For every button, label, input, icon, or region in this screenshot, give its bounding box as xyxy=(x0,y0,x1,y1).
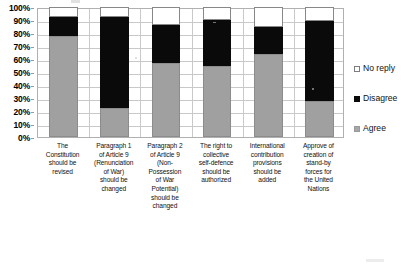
y-axis-tick-mark xyxy=(31,60,34,61)
y-axis-tick-mark xyxy=(31,73,34,74)
legend-item-disagree[interactable]: Disagree xyxy=(354,93,412,104)
bar-segment-no-reply xyxy=(100,7,129,17)
x-axis-category-label: TheConstitutionshould berevised xyxy=(37,142,88,176)
disagree-swatch-icon xyxy=(354,96,360,102)
bar-segment-no-reply xyxy=(49,7,78,17)
bar-segment-disagree xyxy=(305,21,334,100)
bar-slot xyxy=(140,9,191,137)
x-axis-label-line: Paragraph 1 xyxy=(88,142,139,151)
scan-speck xyxy=(71,0,80,3)
bar-slot xyxy=(243,9,294,137)
bar-slot xyxy=(294,9,345,137)
bar-segment-agree xyxy=(305,101,334,137)
x-axis-label-line: of Article 9 xyxy=(139,151,190,160)
x-axis-category-label: Paragraph 2of Article 9(Non-Possessionof… xyxy=(139,142,190,211)
x-axis-label-line: self-defence xyxy=(191,159,242,168)
x-axis-category-label: Approve ofcreation ofstand-byforces fort… xyxy=(293,142,344,194)
x-axis-label-line: Paragraph 2 xyxy=(139,142,190,151)
bar-segment-disagree xyxy=(254,27,283,54)
x-axis-label-line: the United xyxy=(293,176,344,185)
x-axis-category-label: The right tocollectiveself-defenceshould… xyxy=(191,142,242,185)
x-axis-label-line: changed xyxy=(88,185,139,194)
bar-slot xyxy=(89,9,140,137)
bar-segment-disagree xyxy=(152,25,181,63)
y-axis-tick-label: 10% xyxy=(14,121,30,130)
x-axis-label-line: Constitution xyxy=(37,151,88,160)
x-axis-label-line: should be xyxy=(88,176,139,185)
legend-item-label: No reply xyxy=(363,64,395,73)
scan-speck xyxy=(213,22,216,23)
x-axis-label-line: should be xyxy=(139,194,190,203)
y-axis-tick-mark xyxy=(31,47,34,48)
stacked-bar[interactable] xyxy=(152,9,181,137)
x-axis-label-line: of Article 9 xyxy=(88,151,139,160)
x-axis-label-line: revised xyxy=(37,168,88,177)
bar-segment-no-reply xyxy=(152,7,181,25)
y-axis-tick-label: 0% xyxy=(18,134,30,143)
x-axis-label-line: added xyxy=(242,176,293,185)
bar-segment-agree xyxy=(49,36,78,137)
stacked-bar[interactable] xyxy=(254,9,283,137)
x-axis-category-label: Internationalcontributionprovisionsshoul… xyxy=(242,142,293,185)
x-axis-label-line: provisions xyxy=(242,159,293,168)
x-axis-label-line: The right to xyxy=(191,142,242,151)
y-axis-tick-label: 30% xyxy=(14,95,30,104)
noreply-swatch-icon xyxy=(354,66,360,72)
bar-slot xyxy=(38,9,89,137)
x-axis-label-line: collective xyxy=(191,151,242,160)
bar-segment-agree xyxy=(152,63,181,137)
stacked-bar[interactable] xyxy=(100,9,129,137)
y-axis-tick-mark xyxy=(31,125,34,126)
legend-item-label: Disagree xyxy=(363,94,397,103)
x-axis-label-line: stand-by xyxy=(293,159,344,168)
x-axis-label-line: Nations xyxy=(293,185,344,194)
x-axis-label-line: (Non- xyxy=(139,159,190,168)
x-axis-label-line: The xyxy=(37,142,88,151)
x-axis-label-line: of War xyxy=(139,176,190,185)
x-axis-label-line: forces for xyxy=(293,168,344,177)
x-axis-label-line: changed xyxy=(139,202,190,211)
y-axis-tick-mark xyxy=(31,112,34,113)
bar-segment-no-reply xyxy=(203,7,232,20)
legend-item-agree[interactable]: Agree xyxy=(354,123,412,134)
bar-segment-agree xyxy=(100,108,129,137)
y-axis-tick-label: 80% xyxy=(14,30,30,39)
bar-segment-disagree xyxy=(49,17,78,35)
bar-segment-disagree xyxy=(203,20,232,66)
agree-swatch-icon xyxy=(354,126,360,132)
legend-item-no-reply[interactable]: No reply xyxy=(354,63,412,74)
x-axis-labels: TheConstitutionshould berevisedParagraph… xyxy=(37,142,344,262)
y-axis-tick-label: 50% xyxy=(14,69,30,78)
scan-speck xyxy=(366,259,384,262)
y-axis-tick-mark xyxy=(31,8,34,9)
y-axis-tick-mark xyxy=(31,21,34,22)
bar-slot xyxy=(192,9,243,137)
plot-area xyxy=(37,8,344,138)
bar-segment-disagree xyxy=(100,17,129,108)
y-axis-tick-label: 20% xyxy=(14,108,30,117)
x-axis-label-line: of War) xyxy=(88,168,139,177)
x-axis-label-line: Possession xyxy=(139,168,190,177)
bar-segment-no-reply xyxy=(305,7,334,21)
y-axis-tick-label: 60% xyxy=(14,56,30,65)
stacked-bar[interactable] xyxy=(49,9,78,137)
y-axis-tick-mark xyxy=(31,138,34,139)
y-axis-tick-label: 90% xyxy=(14,17,30,26)
bar-segment-agree xyxy=(203,66,232,138)
x-axis-label-line: authorized xyxy=(191,176,242,185)
legend-item-label: Agree xyxy=(363,124,386,133)
x-axis-label-line: should be xyxy=(37,159,88,168)
chart-legend: No replyDisagreeAgree xyxy=(354,63,412,153)
y-axis-tick-mark xyxy=(31,99,34,100)
y-axis-tick-label: 70% xyxy=(14,43,30,52)
stacked-bar[interactable] xyxy=(305,9,334,137)
x-axis-label-line: creation of xyxy=(293,151,344,160)
x-axis-label-line: International xyxy=(242,142,293,151)
y-axis-tick-label: 100% xyxy=(9,4,30,13)
x-axis-label-line: should be xyxy=(191,168,242,177)
scan-speck xyxy=(312,88,314,90)
bar-segment-agree xyxy=(254,54,283,137)
x-axis-category-label: Paragraph 1of Article 9(Renunciationof W… xyxy=(88,142,139,194)
stacked-bar[interactable] xyxy=(203,9,232,137)
x-axis-label-line: Approve of xyxy=(293,142,344,151)
